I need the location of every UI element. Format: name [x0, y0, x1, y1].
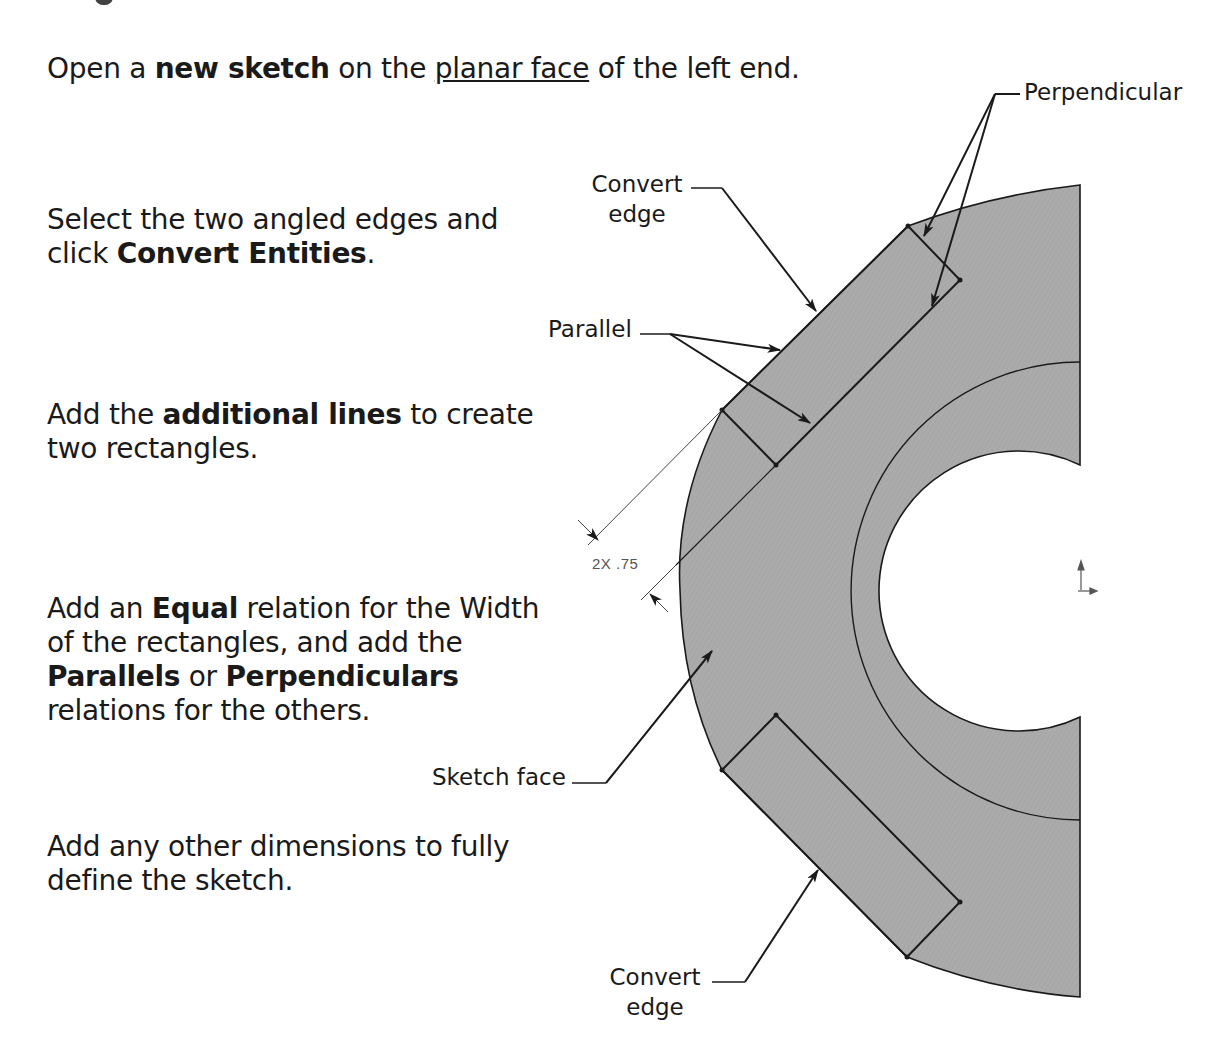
- callout-perpendicular-label: Perpendicular: [1024, 79, 1182, 105]
- callout-sketch-face-label: Sketch face: [432, 764, 566, 790]
- callout-convert-edge-top-line1: Convert: [587, 169, 687, 199]
- callout-convert-edge-bottom: Convert edge: [605, 962, 705, 1022]
- sketch-face-region[interactable]: [680, 185, 1080, 997]
- callout-parallel: Parallel: [548, 314, 632, 344]
- callout-convert-edge-bottom-line1: Convert: [605, 962, 705, 992]
- callout-perpendicular: Perpendicular: [1024, 77, 1182, 107]
- callout-convert-edge-top-line2: edge: [587, 199, 687, 229]
- callout-convert-edge-bottom-line2: edge: [605, 992, 705, 1022]
- callout-parallel-label: Parallel: [548, 316, 632, 342]
- callout-sketch-face: Sketch face: [432, 762, 566, 792]
- dimension-label[interactable]: 2X .75: [592, 555, 638, 572]
- origin-axes-icon: [1078, 561, 1097, 594]
- sketch-diagram: [0, 0, 1225, 1042]
- callout-convert-edge-top: Convert edge: [587, 169, 687, 229]
